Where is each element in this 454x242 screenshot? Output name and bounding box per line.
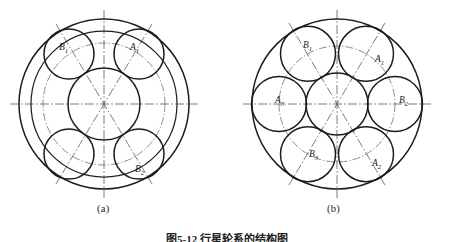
planet-label-a-b1: B1 — [59, 42, 68, 54]
planet-label-b-b2: B2 — [399, 95, 409, 107]
planet-label-b-b1: B1 — [303, 40, 312, 52]
figure-caption: 图5-12 行星轮系的结构图 — [0, 233, 454, 242]
planet-label-a-a1: A1 — [129, 42, 139, 54]
planet-label-b-a3: A3 — [274, 95, 285, 107]
planet-gear-b-a1 — [339, 26, 394, 81]
planet-label-b-b3: B3 — [309, 149, 319, 161]
diagram-b: B1 A1 B2 A2 B3 A3 — [227, 0, 454, 208]
subcaption-a: (a) — [97, 203, 110, 214]
subcaption-b: (b) — [327, 203, 340, 214]
planet-label-b-a1: A1 — [374, 54, 384, 66]
diagram-a-centerlines — [10, 10, 198, 198]
figure-root: B1 A1 B2 B1 A1 B2 — [0, 0, 454, 242]
diagram-a: B1 A1 B2 — [0, 0, 227, 208]
planet-label-b-a2: A2 — [371, 158, 382, 170]
